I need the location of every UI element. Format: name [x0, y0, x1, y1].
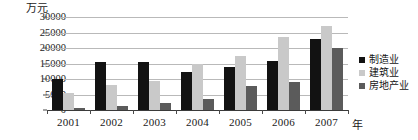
bar — [181, 72, 192, 110]
legend-swatch-icon — [359, 83, 365, 89]
legend-label: 建筑业 — [369, 68, 399, 78]
x-axis-tick-label: 2005 — [219, 116, 263, 128]
bar-chart: 万元 050001000015000200002500030000 200120… — [0, 0, 418, 140]
x-axis-tick-label: 2007 — [305, 116, 349, 128]
legend-item[interactable]: 建筑业 — [359, 68, 409, 78]
bar — [95, 62, 106, 110]
x-axis-tick-mark — [133, 110, 134, 114]
gridline — [47, 48, 348, 49]
x-axis-tick-label: 2001 — [47, 116, 91, 128]
bar — [203, 99, 214, 110]
bar — [310, 39, 321, 110]
bar — [74, 108, 85, 110]
bar — [192, 64, 203, 110]
x-axis-tick-mark — [348, 110, 349, 114]
bar — [235, 56, 246, 110]
bar — [63, 93, 74, 110]
x-axis-tick-label: 2002 — [90, 116, 134, 128]
bar — [321, 26, 332, 110]
bar — [117, 106, 128, 110]
legend-label: 制造业 — [369, 55, 399, 65]
legend-swatch-icon — [359, 70, 365, 76]
bar — [138, 62, 149, 110]
legend-item[interactable]: 制造业 — [359, 55, 409, 65]
plot-area — [47, 17, 348, 110]
bar — [289, 82, 300, 110]
x-axis-tick-mark — [305, 110, 306, 114]
x-axis-tick-mark — [90, 110, 91, 114]
x-axis-tick-mark — [262, 110, 263, 114]
bar — [106, 85, 117, 110]
bar — [160, 103, 171, 110]
x-axis-tick-mark — [219, 110, 220, 114]
legend-item[interactable]: 房地产业 — [359, 81, 409, 91]
bar — [278, 37, 289, 110]
bar-group — [224, 56, 257, 110]
bar — [267, 61, 278, 110]
x-axis-tick-label: 2003 — [133, 116, 177, 128]
x-axis-line — [47, 110, 348, 111]
bar-group — [138, 62, 171, 110]
x-axis-tick-mark — [47, 110, 48, 114]
bar — [246, 86, 257, 110]
bar-group — [181, 64, 214, 110]
legend-label: 房地产业 — [369, 81, 409, 91]
x-axis-tick-label: 2006 — [262, 116, 306, 128]
x-axis-tick-mark — [176, 110, 177, 114]
legend-swatch-icon — [359, 57, 365, 63]
bar-group — [95, 62, 128, 110]
bar — [332, 48, 343, 110]
legend: 制造业建筑业房地产业 — [359, 55, 409, 91]
x-axis-title: 年 — [352, 116, 363, 132]
gridline — [47, 17, 348, 18]
bar — [149, 81, 160, 110]
bar — [52, 79, 63, 110]
bar-group — [52, 79, 85, 110]
bar-group — [310, 26, 343, 110]
x-axis-tick-label: 2004 — [176, 116, 220, 128]
bar — [224, 67, 235, 110]
bar-group — [267, 37, 300, 110]
gridline — [47, 33, 348, 34]
